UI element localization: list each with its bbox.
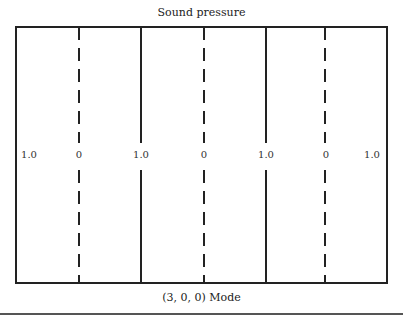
pressure-label: 1.0 — [364, 149, 380, 160]
pressure-label: 1.0 — [258, 149, 274, 160]
pressure-label: 0 — [76, 149, 82, 160]
pressure-label: 1.0 — [133, 149, 149, 160]
pressure-label: 1.0 — [21, 149, 37, 160]
pressure-label: 0 — [323, 149, 329, 160]
mode-caption: (3, 0, 0) Mode — [0, 291, 403, 304]
pressure-label: 0 — [201, 149, 207, 160]
